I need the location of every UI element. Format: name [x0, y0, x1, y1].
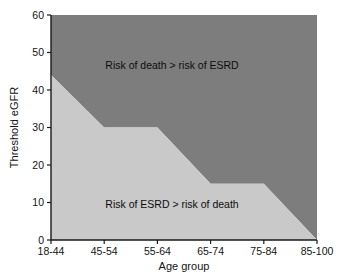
upper-region-label: Risk of death > risk of ESRD	[105, 59, 239, 71]
y-tick-label: 30	[32, 121, 44, 133]
y-tick-label: 60	[32, 9, 44, 21]
x-axis-title: Age group	[159, 260, 210, 272]
lower-region-label: Risk of ESRD > risk of death	[105, 198, 239, 210]
y-tick-label: 0	[38, 234, 44, 246]
y-tick-label: 40	[32, 84, 44, 96]
x-tick-label: 55-64	[144, 245, 171, 257]
x-tick-label: 65-74	[197, 245, 224, 257]
y-axis-title: Threshold eGFR	[8, 87, 20, 168]
chart-figure: 0102030405060 18-4445-5455-6465-7475-848…	[0, 0, 341, 279]
threshold-egfr-chart: 0102030405060 18-4445-5455-6465-7475-848…	[0, 0, 341, 279]
y-tick-label: 10	[32, 196, 44, 208]
y-tick-label: 50	[32, 46, 44, 58]
x-tick-label: 45-54	[91, 245, 118, 257]
x-tick-label: 18-44	[38, 245, 65, 257]
x-tick-label: 85-100	[301, 245, 334, 257]
y-tick-label: 20	[32, 159, 44, 171]
x-tick-label: 75-84	[250, 245, 277, 257]
